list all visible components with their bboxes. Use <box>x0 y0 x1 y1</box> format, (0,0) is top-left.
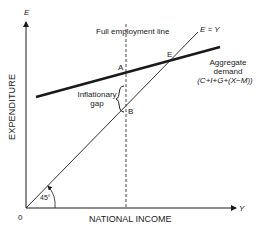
forty-five-line-label: E = Y <box>200 25 220 34</box>
point-e-label: E <box>167 50 172 59</box>
inflationary-gap-label-1: Inflationary <box>76 90 118 99</box>
aggregate-demand-label-2: demand <box>200 67 256 76</box>
x-axis-label: NATIONAL INCOME <box>89 215 172 224</box>
angle-label: 45° <box>40 193 51 202</box>
point-a-label: A <box>118 63 123 72</box>
aggregate-demand-label-1: Aggregate <box>200 58 256 67</box>
x-axis-symbol: Y <box>239 204 244 213</box>
y-axis-symbol: E <box>24 8 29 17</box>
origin-label: 0 <box>18 213 22 222</box>
aggregate-demand-line <box>36 47 220 97</box>
full-employment-label: Full employment line <box>96 27 169 36</box>
y-axis-label: EXPENDITURE <box>8 74 17 140</box>
inflationary-gap-label-2: gap <box>76 99 118 108</box>
aggregate-demand-label-3: (C+I+G+(X−M)) <box>190 76 260 85</box>
point-b-label: B <box>128 107 133 116</box>
